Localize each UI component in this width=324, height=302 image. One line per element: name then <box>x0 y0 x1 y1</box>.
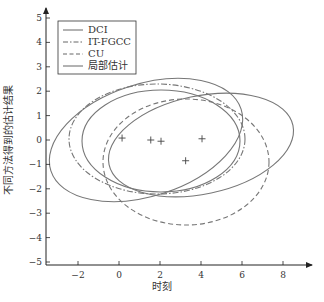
y-ticks: 543210−1−2−3−4−5 <box>29 13 50 267</box>
plus-marker <box>147 137 154 144</box>
x-tick-label: 8 <box>280 270 286 280</box>
y-tick-label: −1 <box>29 159 42 169</box>
y-tick-label: 3 <box>36 62 42 72</box>
legend-label-cu: CU <box>88 48 104 59</box>
y-tick-label: −3 <box>29 208 43 218</box>
x-tick-label: 0 <box>116 270 122 280</box>
plus-marker <box>182 157 189 164</box>
legend: DCI IT-FGCC CU 局部估计 <box>58 21 136 74</box>
local-estimate-markers <box>119 135 206 165</box>
ellipse-it-fgcc <box>69 84 245 194</box>
x-ticks: −202468 <box>71 261 286 280</box>
x-tick-label: −2 <box>71 270 84 280</box>
ellipse-local-b <box>99 78 303 213</box>
chart: −202468 543210−1−2−3−4−5 时刻 不同方法得到的估计结果 … <box>0 0 324 302</box>
y-tick-label: 0 <box>36 135 42 145</box>
y-tick-label: 2 <box>36 86 42 96</box>
x-tick-label: 6 <box>239 270 245 280</box>
x-axis-title: 时刻 <box>152 280 172 292</box>
legend-label-it-fgcc: IT-FGCC <box>88 36 131 47</box>
legend-label-local: 局部估计 <box>88 59 128 71</box>
plus-marker <box>199 135 206 142</box>
y-tick-label: −5 <box>29 257 43 267</box>
y-tick-label: 4 <box>36 37 42 47</box>
ellipse-group <box>34 56 304 225</box>
y-tick-label: 5 <box>36 13 42 23</box>
y-tick-label: −4 <box>29 233 43 243</box>
x-tick-label: 2 <box>157 270 163 280</box>
y-tick-label: −2 <box>29 184 42 194</box>
y-axis-title: 不同方法得到的估计结果 <box>2 85 14 195</box>
plus-marker <box>119 135 126 142</box>
y-tick-label: 1 <box>36 111 42 121</box>
x-tick-label: 4 <box>198 270 204 280</box>
legend-label-dci: DCI <box>88 24 108 35</box>
ellipse-dci <box>34 56 259 224</box>
plus-marker <box>158 138 165 145</box>
